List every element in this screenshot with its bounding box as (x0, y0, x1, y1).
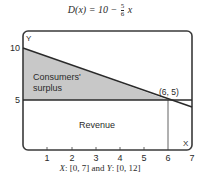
svg-text:1: 1 (44, 153, 49, 163)
svg-text:7: 7 (189, 153, 194, 163)
axis-range-caption: X: [0, 7] and Y: [0, 12] (0, 163, 200, 173)
svg-text:2: 2 (69, 153, 74, 163)
svg-text:5: 5 (141, 153, 146, 163)
y-tick-10: 10 (10, 43, 20, 53)
y-axis-label: Y (26, 34, 32, 43)
consumers-surplus-label-line2: surplus (33, 83, 63, 93)
equilibrium-point-label: (6, 5) (159, 87, 179, 97)
plot-area: 1 2 3 4 5 6 7 10 5 Y X Consumers' surplu… (0, 0, 200, 181)
caption-x-range: : [0, 7] and (65, 163, 107, 173)
revenue-label: Revenue (79, 120, 115, 130)
svg-text:3: 3 (93, 153, 98, 163)
y-tick-5: 5 (15, 95, 20, 105)
svg-text:6: 6 (165, 153, 170, 163)
x-tick-labels: 1 2 3 4 5 6 7 (44, 153, 194, 163)
caption-y-range: : [0, 12] (112, 163, 141, 173)
consumers-surplus-label-line1: Consumers' (33, 72, 81, 82)
svg-text:4: 4 (117, 153, 122, 163)
x-axis-label: X (183, 139, 189, 148)
